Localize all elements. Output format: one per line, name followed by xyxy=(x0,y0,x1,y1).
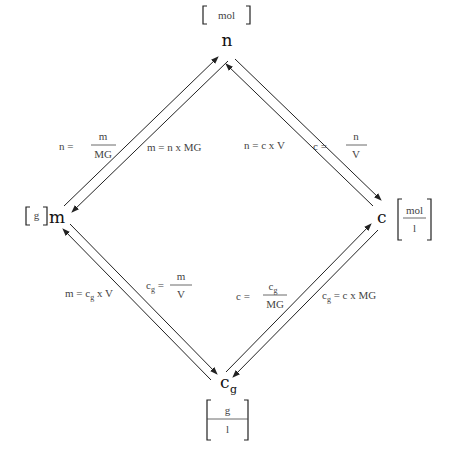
svg-text:c =: c = xyxy=(313,140,327,152)
unit-bracket-mol-per-l: mol l xyxy=(398,199,431,240)
formula-n-from-c: n = c x V xyxy=(244,139,285,151)
node-n: mol n xyxy=(203,6,250,50)
edge-m-n: n = m MG m = n x MG xyxy=(59,57,228,212)
formula-m-from-cg: m = cg x V xyxy=(65,287,113,302)
symbol-m: m xyxy=(49,207,65,227)
unit-bracket-mol: mol xyxy=(203,6,250,24)
formula-cg-from-m: cg = m V xyxy=(146,270,192,300)
svg-text:m: m xyxy=(99,130,108,142)
unit-g: g xyxy=(34,209,40,221)
svg-text:V: V xyxy=(352,148,360,160)
arrow-cg-to-m xyxy=(63,229,211,380)
edge-cg-c: c = cg MG cg = c x MG xyxy=(226,224,378,377)
unit-mol-numerator: mol xyxy=(406,204,423,216)
arrow-n-to-m xyxy=(72,61,228,212)
formula-c-from-cg: c = cg MG xyxy=(236,280,287,310)
svg-text:n =: n = xyxy=(59,140,73,152)
svg-text:MG: MG xyxy=(266,298,284,310)
svg-text:m = cg x V: m = cg x V xyxy=(65,287,113,302)
arrow-c-to-n xyxy=(226,64,373,206)
unit-bracket-g: g xyxy=(26,207,47,225)
formula-n-from-m: n = m MG xyxy=(59,130,116,160)
svg-text:m: m xyxy=(177,270,186,282)
symbol-c-base: c xyxy=(220,372,230,392)
unit-g-numerator: g xyxy=(225,404,231,416)
unit-l-denominator: l xyxy=(413,222,416,234)
unit-mol: mol xyxy=(218,9,235,21)
svg-text:cg: cg xyxy=(269,280,278,295)
symbol-n: n xyxy=(222,30,233,50)
arrow-c-to-cg xyxy=(233,230,378,377)
arrow-m-to-n xyxy=(64,57,218,206)
arrow-n-to-c xyxy=(235,59,381,200)
edge-n-c: n = c x V c = n V xyxy=(226,59,381,206)
formula-cg-from-c: cg = c x MG xyxy=(322,289,376,304)
node-c: c mol l xyxy=(377,199,431,240)
node-m: g m xyxy=(26,207,65,227)
formula-m-from-n: m = n x MG xyxy=(147,141,202,153)
unit-l-denominator: l xyxy=(226,423,229,435)
svg-text:n: n xyxy=(353,130,359,142)
svg-text:V: V xyxy=(177,288,185,300)
node-cg: c g g l xyxy=(207,372,248,440)
symbol-g-subscript: g xyxy=(230,383,237,396)
symbol-c: c xyxy=(377,207,387,227)
edge-m-cg: m = cg x V cg = m V xyxy=(63,224,217,380)
svg-text:c =: c = xyxy=(236,290,250,302)
svg-text:cg =: cg = xyxy=(146,279,164,294)
unit-bracket-g-per-l: g l xyxy=(207,400,248,440)
svg-text:MG: MG xyxy=(94,148,112,160)
svg-text:cg = c x MG: cg = c x MG xyxy=(322,289,376,304)
mole-mass-concentration-diagram: mol n g m c mol l c g g l xyxy=(0,0,454,464)
